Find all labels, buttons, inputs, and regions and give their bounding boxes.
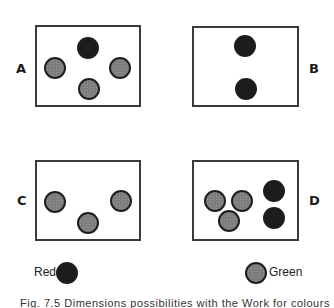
green-dot bbox=[110, 190, 132, 212]
green-dot bbox=[78, 78, 100, 100]
red-dot bbox=[263, 207, 285, 229]
red-dot bbox=[263, 180, 285, 202]
red-dot bbox=[235, 78, 257, 100]
green-dot bbox=[44, 191, 66, 213]
panel-label-d: D bbox=[309, 193, 320, 208]
green-dot bbox=[44, 57, 66, 79]
red-dot bbox=[234, 35, 256, 57]
green-dot bbox=[204, 190, 226, 212]
legend-green-swatch bbox=[245, 262, 267, 284]
legend-red-swatch bbox=[56, 262, 78, 284]
legend-red-label: Red bbox=[34, 265, 56, 279]
green-dot bbox=[109, 57, 131, 79]
legend-green-label: Green bbox=[269, 265, 302, 279]
figure-caption: Fig. 7.5 Dimensions possibilities with t… bbox=[20, 297, 330, 308]
panel-label-b: B bbox=[309, 61, 319, 76]
green-dot bbox=[231, 190, 253, 212]
green-dot bbox=[218, 210, 240, 232]
panel-label-a: A bbox=[16, 61, 26, 76]
panel-label-c: C bbox=[17, 193, 27, 208]
red-dot bbox=[77, 37, 99, 59]
figure-canvas: A B C D Red Green Fig. 7.5 Dimensions po… bbox=[0, 0, 334, 308]
green-dot bbox=[77, 212, 99, 234]
